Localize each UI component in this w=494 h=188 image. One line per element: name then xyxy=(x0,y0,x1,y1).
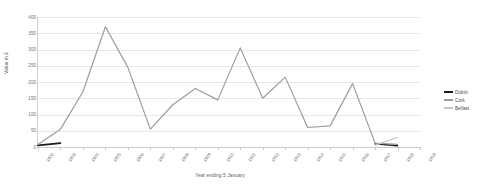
grid-line xyxy=(38,66,420,67)
x-axis-tick-label: 1908 xyxy=(180,152,190,163)
x-axis-tick-label: 1910 xyxy=(225,152,235,163)
x-axis-tick xyxy=(240,147,241,150)
y-axis-tick-label: 300 xyxy=(12,47,36,52)
x-axis-tick xyxy=(308,147,309,150)
legend-swatch-icon xyxy=(444,91,453,93)
x-axis-tick xyxy=(173,147,174,150)
legend-item-dublin[interactable]: Dublin xyxy=(444,88,492,96)
x-axis-tick xyxy=(353,147,354,150)
y-axis-tick-label: 150 xyxy=(12,96,36,101)
y-axis-tick-label: 350 xyxy=(12,31,36,36)
x-axis-tick xyxy=(218,147,219,150)
grid-line xyxy=(38,98,420,99)
y-axis-tick-label: 250 xyxy=(12,63,36,68)
x-axis-tick-label: 1907 xyxy=(158,152,168,163)
x-axis-tick-label: 1916 xyxy=(360,152,370,163)
x-axis-tick-label: 1914 xyxy=(315,152,325,163)
x-axis-tick-label: 1918 xyxy=(405,152,415,163)
chart-legend: DublinCorkBelfast xyxy=(444,88,492,112)
y-axis-tick-label: 400 xyxy=(12,15,36,20)
x-axis-tick xyxy=(83,147,84,150)
x-axis-tick xyxy=(150,147,151,150)
x-axis-tick-label: 1915 xyxy=(337,152,347,163)
x-axis-tick xyxy=(128,147,129,150)
legend-label: Belfast xyxy=(455,106,469,111)
grid-line xyxy=(38,82,420,83)
grid-line xyxy=(38,131,420,132)
x-axis-tick-label: 1913 xyxy=(292,152,302,163)
grid-line xyxy=(38,115,420,116)
y-axis-tick-label: 200 xyxy=(12,80,36,85)
y-axis-tick-label: 50 xyxy=(12,128,36,133)
grid-line xyxy=(38,147,420,148)
x-axis-tick xyxy=(285,147,286,150)
x-axis-tick-label: 1919 xyxy=(427,152,437,163)
legend-item-belfast[interactable]: Belfast xyxy=(444,104,492,112)
line-chart: Value in £ 400350300250200150100500 1902… xyxy=(0,0,494,188)
grid-line xyxy=(38,50,420,51)
y-axis-title: Value in £ xyxy=(3,15,9,111)
x-axis-tick-label: 1904 xyxy=(90,152,100,163)
x-axis-tick xyxy=(263,147,264,150)
y-axis-tick-label: 100 xyxy=(12,112,36,117)
legend-swatch-icon xyxy=(444,107,453,109)
x-axis-tick-label: 1917 xyxy=(382,152,392,163)
legend-label: Cork xyxy=(455,98,465,103)
y-axis-tick-label: 0 xyxy=(12,145,36,150)
x-axis-tick-label: 1911 xyxy=(247,152,257,163)
x-axis-tick-label: 1903 xyxy=(68,152,78,163)
x-axis-tick xyxy=(420,147,421,150)
x-axis-tick xyxy=(38,147,39,150)
x-axis-tick xyxy=(195,147,196,150)
legend-swatch-icon xyxy=(444,99,453,101)
legend-label: Dublin xyxy=(455,90,468,95)
x-axis-tick-label: 1905 xyxy=(113,152,123,163)
grid-line xyxy=(38,33,420,34)
x-axis-tick-label: 1912 xyxy=(270,152,280,163)
x-axis-title: Year ending 5 January xyxy=(0,172,440,178)
x-axis-tick xyxy=(105,147,106,150)
x-axis-tick xyxy=(330,147,331,150)
x-axis-tick xyxy=(375,147,376,150)
x-axis-tick-label: 1909 xyxy=(202,152,212,163)
x-axis-tick-label: 1906 xyxy=(135,152,145,163)
x-axis-tick xyxy=(60,147,61,150)
grid-line xyxy=(38,17,420,18)
x-axis-tick-label: 1902 xyxy=(45,152,55,163)
legend-item-cork[interactable]: Cork xyxy=(444,96,492,104)
plot-area xyxy=(38,17,420,147)
x-axis-tick xyxy=(398,147,399,150)
